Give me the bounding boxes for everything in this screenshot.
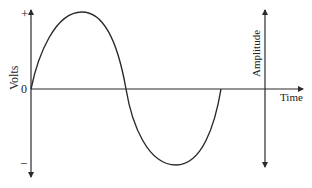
amplitude-label: Amplitude <box>250 30 262 77</box>
minus-label: − <box>20 156 27 171</box>
volts-label: Volts <box>7 65 21 90</box>
plus-label: + <box>21 6 28 21</box>
zero-label: 0 <box>21 82 27 96</box>
sine-wave-diagram: + 0 − Volts Amplitude Time <box>0 0 312 188</box>
time-label: Time <box>280 91 303 103</box>
